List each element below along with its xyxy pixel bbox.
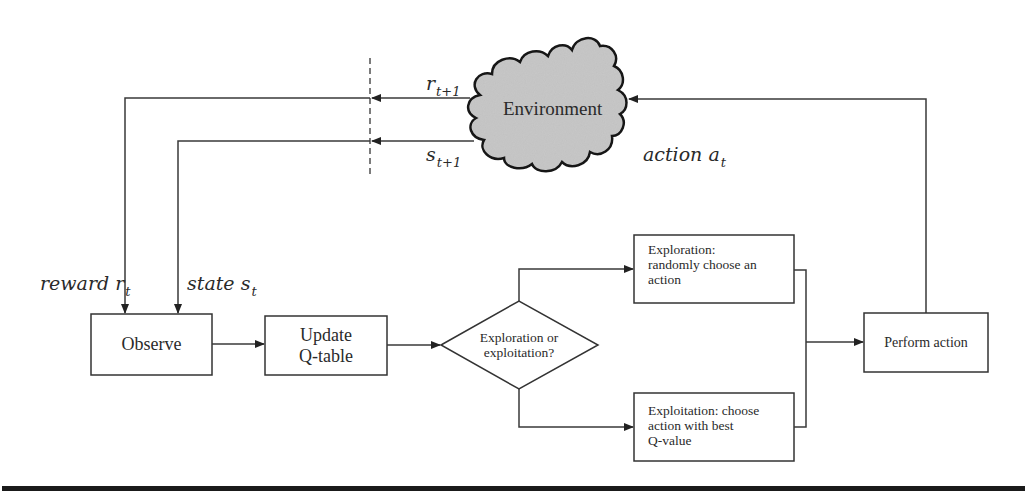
exploitation-line1: Exploitation: choose <box>648 403 794 418</box>
exploitation-line2: action with best <box>648 418 794 433</box>
state-next-var: s <box>426 143 436 165</box>
reward-sub: t <box>125 284 130 299</box>
action-prefix: action <box>643 143 708 165</box>
state-var: s <box>241 272 251 294</box>
state-next-sub: t+1 <box>437 155 461 170</box>
decision-label: Exploration or exploitation? <box>460 322 578 368</box>
state-next-label: st+1 <box>426 143 461 165</box>
reward-next-sub: t+1 <box>436 84 460 99</box>
reward-label: reward rt <box>40 272 131 294</box>
exploitation-line3: Q-value <box>648 433 794 448</box>
state-prefix: state <box>187 272 241 294</box>
update-line2: Q-table <box>299 346 353 366</box>
exploitation-label: Exploitation: choose action with best Q-… <box>648 403 794 448</box>
reward-next-var: r <box>426 72 435 94</box>
decision-to-exploitation-arrow <box>519 389 633 427</box>
reward-feedback-line <box>125 98 470 313</box>
perform-action-label: Perform action <box>864 313 988 372</box>
update-qtable-label: Update Q-table <box>265 316 387 375</box>
q-learning-diagram <box>0 0 1029 503</box>
exploration-line3: action <box>648 272 794 287</box>
decision-line2: exploitation? <box>484 345 554 360</box>
exploration-line1: Exploration: <box>648 242 794 257</box>
bottom-rule <box>2 486 1025 491</box>
update-line1: Update <box>300 325 352 345</box>
decision-line1: Exploration or <box>480 330 558 345</box>
exploration-line2: randomly choose an <box>648 257 794 272</box>
merge-connector <box>794 270 863 427</box>
reward-var: r <box>115 272 124 294</box>
state-sub: t <box>251 284 256 299</box>
action-label: action at <box>643 143 726 165</box>
reward-prefix: reward <box>40 272 115 294</box>
exploration-label: Exploration: randomly choose an action <box>648 242 794 287</box>
action-var: a <box>708 143 719 165</box>
environment-label: Environment <box>503 98 602 120</box>
observe-label: Observe <box>91 314 212 375</box>
reward-next-label: rt+1 <box>426 72 460 94</box>
state-label: state st <box>187 272 257 294</box>
action-sub: t <box>721 155 726 170</box>
decision-to-exploration-arrow <box>519 269 633 301</box>
